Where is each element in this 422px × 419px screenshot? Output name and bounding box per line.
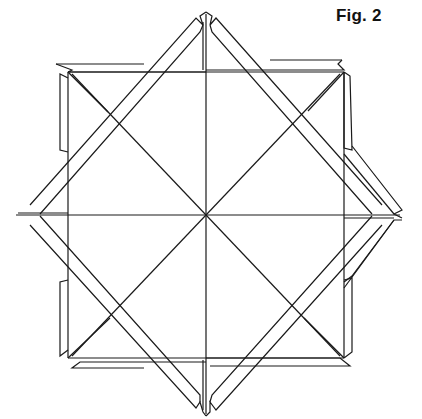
folded-star-diagram [0, 0, 422, 419]
right-point-upper-outer [352, 146, 402, 218]
bottom-right-strip [206, 358, 350, 366]
right-point-lower-inner [344, 220, 394, 288]
bottom-point-left-outer [30, 225, 206, 416]
bottom-point-right-inner [210, 216, 372, 402]
top-right-strip [206, 60, 344, 70]
top-left-strip [56, 64, 206, 72]
flap-fold-ne [308, 72, 344, 111]
flap-fold-nw [68, 72, 108, 112]
top-point-outer-right-edge [206, 12, 382, 205]
left-lower-strip [60, 280, 68, 356]
flap-fold-se [304, 318, 344, 358]
bottom-left-strip [72, 362, 206, 368]
bottom-point-right-outer [206, 225, 382, 416]
right-lower-strip [344, 278, 352, 358]
right-point-lower-outer [344, 220, 402, 282]
bottom-point-left-inner [40, 216, 200, 402]
right-point-upper-inner [344, 154, 394, 214]
flap-fold-sw [68, 318, 110, 358]
top-square-edge [56, 60, 344, 72]
top-point-outer-left-edge [30, 12, 206, 205]
left-upper-strip [60, 74, 68, 152]
right-upper-strip [344, 72, 352, 150]
